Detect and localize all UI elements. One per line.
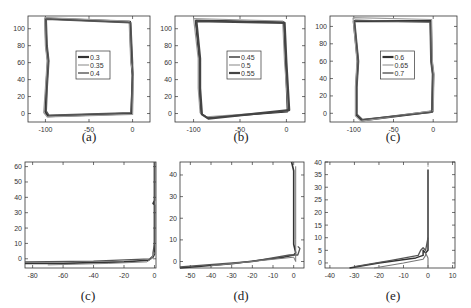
axes-frame [325, 162, 455, 268]
x-tick-label: 0 [431, 126, 435, 133]
y-tick-label: 100 [160, 25, 172, 32]
y-tick-label: 60 [14, 163, 22, 170]
y-tick-label: 40 [319, 75, 327, 82]
chart-plot-c2: -80-60-40-2000102030405060 [0, 150, 160, 308]
x-tick-label: -20 [374, 272, 384, 279]
x-tick-label: -100 [347, 126, 361, 133]
y-tick-label: 0 [323, 110, 327, 117]
x-tick-label: -40 [325, 272, 335, 279]
y-tick-label: 80 [164, 42, 172, 49]
y-tick-label: 20 [164, 93, 172, 100]
x-tick-label: 0 [284, 126, 288, 133]
x-tick-label: -30 [227, 272, 237, 279]
legend: 0.30.350.4 [76, 51, 110, 79]
y-tick-label: 80 [319, 40, 327, 47]
y-tick-label: 15 [314, 222, 322, 229]
legend-label: 0.45 [241, 54, 255, 61]
x-tick-label: -60 [58, 272, 68, 279]
x-tick-label: 0 [131, 126, 135, 133]
chart-plot-d: -50-40-30-20-100010203040 [160, 150, 310, 308]
y-tick-label: 0 [18, 255, 22, 262]
y-tick-label: 25 [314, 196, 322, 203]
y-tick-label: 80 [17, 42, 25, 49]
legend-label: 0.4 [90, 70, 100, 77]
y-tick-label: 5 [318, 247, 322, 254]
legend-label: 0.35 [90, 62, 104, 69]
chart-panel-e: -40-30-20-100100510152025303540 [310, 150, 471, 308]
legend-label: 0.3 [90, 54, 100, 61]
chart-panel-d: -50-40-30-20-100010203040 [160, 150, 310, 308]
legend-label: 0.55 [241, 70, 255, 77]
y-tick-label: 20 [17, 93, 25, 100]
x-tick-label: -50 [185, 272, 195, 279]
y-tick-label: 40 [14, 194, 22, 201]
y-tick-label: 10 [314, 234, 322, 241]
x-tick-label: -40 [206, 272, 216, 279]
y-tick-label: 100 [315, 23, 327, 30]
chart-plot-a: -100-5000204060801000.30.350.4 [0, 0, 157, 150]
caption-a: (a) [69, 129, 109, 145]
axes-frame [25, 162, 156, 268]
y-tick-label: 0 [21, 110, 25, 117]
y-tick-label: 20 [319, 92, 327, 99]
y-tick-label: 0 [173, 258, 177, 265]
x-tick-label: 10 [449, 272, 457, 279]
y-tick-label: 60 [319, 58, 327, 65]
caption-c: (c) [373, 129, 413, 145]
y-tick-label: 20 [314, 209, 322, 216]
chart-panel-c2: -80-60-40-2000102030405060 [0, 150, 160, 308]
y-tick-label: 50 [14, 178, 22, 185]
x-tick-label: 0 [426, 272, 430, 279]
legend: 0.60.650.7 [381, 51, 415, 79]
chart-plot-c: -100-5000204060801000.60.650.7 [314, 0, 471, 150]
caption-d: (d) [221, 288, 261, 304]
x-tick-label: -20 [119, 272, 129, 279]
chart-plot-e: -40-30-20-100100510152025303540 [310, 150, 471, 308]
x-tick-label: -10 [398, 272, 408, 279]
x-tick-label: -10 [268, 272, 278, 279]
caption-b: (b) [221, 129, 261, 145]
legend-label: 0.6 [395, 54, 405, 61]
caption-c2: (c) [68, 288, 108, 304]
chart-panel-a: -100-5000204060801000.30.350.4 [0, 0, 157, 150]
legend-label: 0.65 [395, 62, 409, 69]
y-tick-label: 20 [169, 215, 177, 222]
caption-e: (e) [373, 288, 413, 304]
y-tick-label: 20 [14, 225, 22, 232]
x-tick-label: -100 [187, 126, 201, 133]
legend: 0.450.50.55 [227, 51, 261, 79]
x-tick-label: 0 [292, 272, 296, 279]
x-tick-label: 0 [153, 272, 157, 279]
y-tick-label: 40 [314, 159, 322, 166]
legend-label: 0.7 [395, 70, 405, 77]
y-tick-label: 100 [13, 25, 25, 32]
y-tick-label: 40 [17, 76, 25, 83]
y-tick-label: 30 [314, 184, 322, 191]
y-tick-label: 40 [169, 171, 177, 178]
x-tick-label: -40 [88, 272, 98, 279]
chart-panel-c: -100-5000204060801000.60.650.7 [314, 0, 471, 150]
y-tick-label: 60 [17, 59, 25, 66]
y-tick-label: 10 [14, 240, 22, 247]
legend-label: 0.5 [241, 62, 251, 69]
y-tick-label: 0 [318, 259, 322, 266]
x-tick-label: -80 [28, 272, 38, 279]
y-tick-label: 30 [14, 209, 22, 216]
y-tick-label: 35 [314, 171, 322, 178]
chart-panel-b: -100-5000204060801000.450.50.55 [157, 0, 314, 150]
x-tick-label: -30 [349, 272, 359, 279]
y-tick-label: 0 [168, 110, 172, 117]
y-tick-label: 30 [169, 193, 177, 200]
x-tick-label: -20 [247, 272, 257, 279]
y-tick-label: 60 [164, 59, 172, 66]
y-tick-label: 10 [169, 236, 177, 243]
chart-plot-b: -100-5000204060801000.450.50.55 [157, 0, 314, 150]
x-tick-label: -100 [38, 126, 52, 133]
axes-frame [180, 162, 304, 268]
y-tick-label: 40 [164, 76, 172, 83]
